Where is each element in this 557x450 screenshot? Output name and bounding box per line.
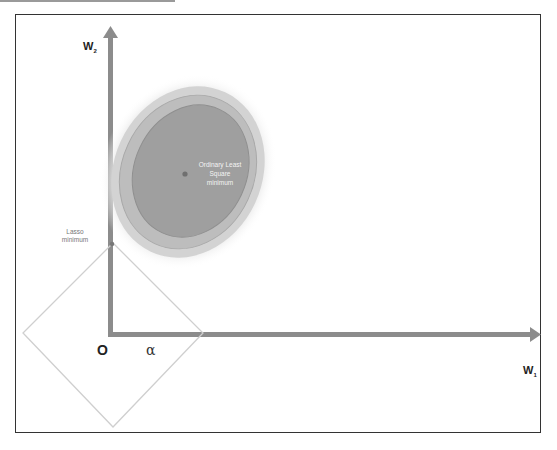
ols-minimum-label: Ordinary Least Square minimum <box>190 160 250 187</box>
x-axis <box>108 327 541 342</box>
x-axis-label: W1 <box>523 364 537 378</box>
lasso-minimum-point <box>110 242 114 246</box>
y-axis-arrowhead-icon <box>103 26 118 38</box>
ols-error-contours <box>68 45 308 299</box>
lasso-minimum-label: Lasso minimum <box>55 228 95 244</box>
x-axis-arrowhead-icon <box>530 327 541 342</box>
y-axis-label: W2 <box>83 40 97 54</box>
diagram-canvas <box>0 0 557 450</box>
alpha-label: α <box>146 342 155 358</box>
ols-minimum-point <box>182 171 187 176</box>
origin-label: O <box>97 342 108 358</box>
